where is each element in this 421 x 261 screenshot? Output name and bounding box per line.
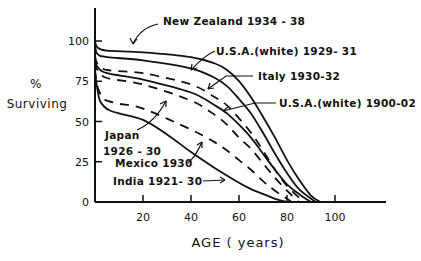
x-tick-label: 80 <box>280 211 294 224</box>
label-mexico: Mexico 1930 <box>115 157 193 169</box>
y-tick-label: 100 <box>68 35 89 48</box>
x-tick-label: 40 <box>184 211 198 224</box>
y-tick-label: 50 <box>75 116 89 129</box>
y-tick-label: 75 <box>75 75 89 88</box>
annotations: New Zealand 1934 - 38 U.S.A.(white) 1929… <box>103 15 416 187</box>
x-ticks: 20406080100 <box>136 195 346 224</box>
label-usa-1929: U.S.A.(white) 1929- 31 <box>216 45 357 57</box>
y-tick-label: 0 <box>82 196 89 209</box>
arrow-india <box>203 180 225 181</box>
arrow-usa-1900 <box>223 103 276 111</box>
label-usa-1900: U.S.A.(white) 1900-02 <box>279 97 416 109</box>
label-japan-line1: Japan <box>104 129 140 141</box>
label-italy: Italy 1930-32 <box>258 70 340 82</box>
y-axis-title: Surviving <box>7 97 68 111</box>
arrow-japan <box>137 101 166 130</box>
x-tick-label: 20 <box>136 211 150 224</box>
arrow-new-zealand <box>133 24 158 44</box>
label-new-zealand: New Zealand 1934 - 38 <box>163 15 305 27</box>
label-india: India 1921- 30 <box>113 175 202 187</box>
y-tick-label: 25 <box>75 156 89 169</box>
x-tick-label: 100 <box>325 211 346 224</box>
y-axis-title-symbol: % <box>30 77 42 91</box>
x-tick-label: 60 <box>232 211 246 224</box>
x-axis-title: AGE ( years) <box>191 235 284 250</box>
label-japan-line2: 1926 - 30 <box>103 145 161 157</box>
survival-chart: 0255075100 20406080100 % Surviving AGE (… <box>0 0 421 261</box>
